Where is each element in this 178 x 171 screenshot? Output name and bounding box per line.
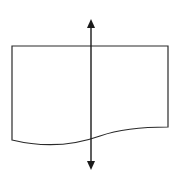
document-shape [12, 46, 168, 145]
diagram-canvas [0, 0, 178, 171]
arrow-up-icon [87, 19, 95, 28]
arrow-down-icon [87, 161, 95, 170]
